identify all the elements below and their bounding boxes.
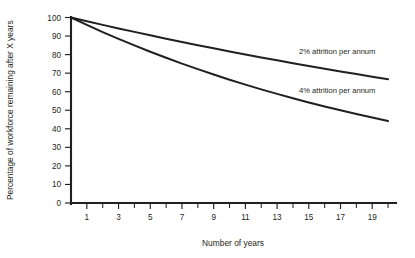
x-tick-label-7: 7	[180, 213, 185, 222]
x-axis-title: Number of years	[202, 238, 264, 248]
y-tick-label-80: 80	[52, 51, 62, 60]
y-tick-label-20: 20	[52, 162, 62, 171]
x-axis-tick-labels: 135791113151719	[85, 213, 378, 222]
data-series-group	[71, 18, 388, 122]
y-tick-label-10: 10	[52, 180, 62, 189]
x-tick-label-11: 11	[241, 213, 250, 222]
y-tick-label-90: 90	[52, 32, 62, 41]
x-tick-label-13: 13	[273, 213, 283, 222]
y-tick-label-70: 70	[52, 69, 62, 78]
x-tick-label-5: 5	[148, 213, 153, 222]
attrition-line-chart: 0102030405060708090100 135791113151719 2…	[0, 0, 415, 258]
y-axis-group: 0102030405060708090100	[47, 14, 71, 209]
y-tick-label-100: 100	[47, 14, 61, 23]
series-annotation-4-percent: 4% attrition per annum	[299, 86, 375, 95]
y-axis-title: Percentage of workforce remaining after …	[5, 20, 15, 200]
x-axis-group: 135791113151719	[71, 203, 396, 222]
y-tick-label-60: 60	[52, 88, 62, 97]
chart-container: 0102030405060708090100 135791113151719 2…	[0, 0, 415, 258]
y-axis-tick-labels: 0102030405060708090100	[47, 14, 61, 209]
y-tick-label-40: 40	[52, 125, 62, 134]
x-tick-label-3: 3	[116, 213, 121, 222]
x-tick-label-17: 17	[336, 213, 346, 222]
y-tick-label-50: 50	[52, 106, 62, 115]
x-tick-label-15: 15	[304, 213, 314, 222]
series-annotation-2-percent: 2% attrition per annum	[299, 47, 375, 56]
y-tick-label-0: 0	[56, 199, 61, 208]
x-tick-label-9: 9	[211, 213, 216, 222]
x-tick-label-1: 1	[85, 213, 90, 222]
x-tick-label-19: 19	[368, 213, 378, 222]
y-tick-label-30: 30	[52, 143, 62, 152]
series-line-4-percent	[71, 18, 388, 122]
